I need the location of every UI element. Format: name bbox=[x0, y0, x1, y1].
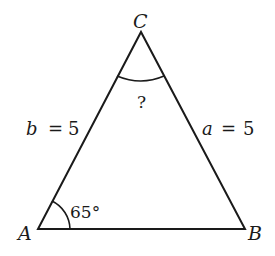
angle-arc-a bbox=[52, 201, 70, 229]
svg-text:a: a bbox=[202, 118, 213, 139]
triangle-diagram: C A B ? 65° b = 5 a = 5 bbox=[0, 0, 275, 256]
svg-text:=: = bbox=[221, 118, 236, 139]
vertex-label-c: C bbox=[133, 10, 148, 32]
side-b-label: b = 5 bbox=[26, 118, 79, 139]
angle-arc-c bbox=[117, 76, 164, 81]
vertex-label-a: A bbox=[16, 222, 32, 244]
side-a-label: a = 5 bbox=[202, 118, 254, 139]
svg-text:5: 5 bbox=[68, 118, 79, 139]
svg-text:b: b bbox=[26, 118, 38, 139]
angle-a-label: 65° bbox=[70, 202, 100, 222]
svg-text:5: 5 bbox=[243, 118, 254, 139]
vertex-label-b: B bbox=[247, 222, 262, 244]
svg-text:=: = bbox=[48, 118, 63, 139]
angle-c-label: ? bbox=[137, 92, 146, 112]
